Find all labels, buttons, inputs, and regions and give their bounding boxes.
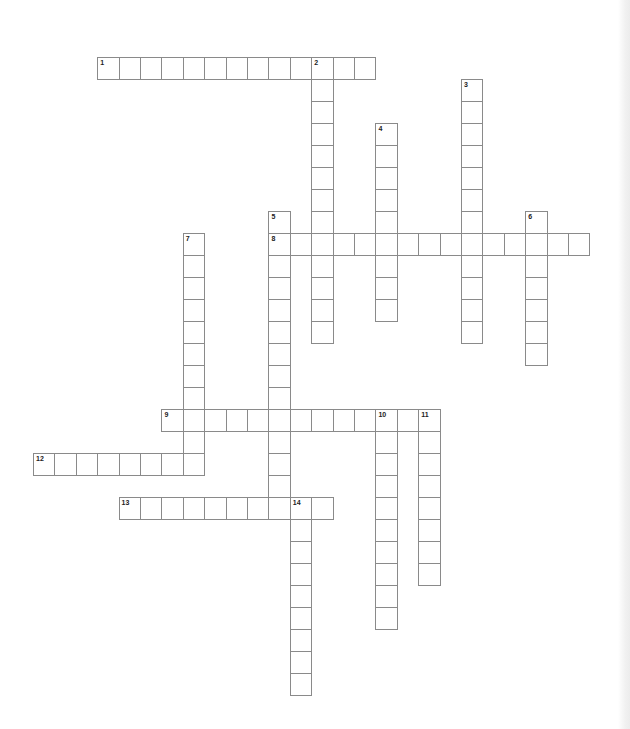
crossword-cell[interactable]: 4	[375, 123, 397, 146]
crossword-cell[interactable]	[161, 497, 183, 520]
crossword-cell[interactable]	[375, 475, 397, 498]
crossword-cell[interactable]	[525, 299, 547, 322]
crossword-cell[interactable]	[354, 233, 376, 256]
crossword-cell[interactable]	[290, 57, 312, 80]
crossword-cell[interactable]	[333, 233, 355, 256]
crossword-cell[interactable]	[311, 167, 333, 190]
crossword-cell[interactable]	[119, 57, 141, 80]
crossword-cell[interactable]	[375, 189, 397, 212]
crossword-cell[interactable]	[247, 409, 269, 432]
crossword-cell[interactable]	[183, 497, 205, 520]
crossword-cell[interactable]	[461, 145, 483, 168]
crossword-cell[interactable]	[268, 57, 290, 80]
crossword-cell[interactable]	[183, 299, 205, 322]
crossword-cell[interactable]	[290, 519, 312, 542]
crossword-cell[interactable]	[375, 233, 397, 256]
crossword-cell[interactable]	[268, 453, 290, 476]
crossword-cell[interactable]	[183, 57, 205, 80]
crossword-cell[interactable]	[183, 277, 205, 300]
crossword-cell[interactable]	[418, 453, 440, 476]
crossword-cell[interactable]	[183, 431, 205, 454]
crossword-cell[interactable]	[525, 321, 547, 344]
crossword-cell[interactable]	[311, 211, 333, 234]
crossword-cell[interactable]	[375, 299, 397, 322]
crossword-cell[interactable]	[525, 277, 547, 300]
crossword-cell[interactable]: 11	[418, 409, 440, 432]
crossword-cell[interactable]	[375, 519, 397, 542]
crossword-cell[interactable]	[311, 101, 333, 124]
crossword-cell[interactable]	[418, 541, 440, 564]
crossword-cell[interactable]: 10	[375, 409, 397, 432]
crossword-cell[interactable]	[161, 453, 183, 476]
crossword-cell[interactable]	[268, 277, 290, 300]
crossword-cell[interactable]	[311, 321, 333, 344]
crossword-cell[interactable]: 7	[183, 233, 205, 256]
crossword-cell[interactable]	[140, 497, 162, 520]
crossword-cell[interactable]	[311, 189, 333, 212]
crossword-cell[interactable]	[375, 497, 397, 520]
crossword-cell[interactable]	[183, 365, 205, 388]
crossword-cell[interactable]	[140, 57, 162, 80]
crossword-cell[interactable]	[375, 277, 397, 300]
crossword-cell[interactable]	[290, 541, 312, 564]
crossword-cell[interactable]	[183, 409, 205, 432]
crossword-cell[interactable]	[375, 211, 397, 234]
crossword-cell[interactable]	[461, 189, 483, 212]
crossword-cell[interactable]: 1	[97, 57, 119, 80]
crossword-cell[interactable]	[183, 387, 205, 410]
crossword-cell[interactable]: 5	[268, 211, 290, 234]
crossword-cell[interactable]	[119, 453, 141, 476]
crossword-cell[interactable]	[375, 563, 397, 586]
crossword-cell[interactable]	[268, 365, 290, 388]
crossword-cell[interactable]	[461, 167, 483, 190]
crossword-cell[interactable]	[183, 255, 205, 278]
crossword-cell[interactable]	[333, 409, 355, 432]
crossword-cell[interactable]: 9	[161, 409, 183, 432]
crossword-cell[interactable]	[268, 343, 290, 366]
crossword-cell[interactable]	[268, 255, 290, 278]
crossword-cell[interactable]	[418, 497, 440, 520]
crossword-cell[interactable]: 13	[119, 497, 141, 520]
crossword-cell[interactable]	[290, 585, 312, 608]
crossword-cell[interactable]	[375, 255, 397, 278]
crossword-cell[interactable]	[290, 233, 312, 256]
crossword-cell[interactable]	[525, 255, 547, 278]
crossword-cell[interactable]	[54, 453, 76, 476]
crossword-cell[interactable]	[375, 453, 397, 476]
crossword-cell[interactable]	[268, 475, 290, 498]
crossword-cell[interactable]	[268, 321, 290, 344]
crossword-cell[interactable]	[461, 101, 483, 124]
crossword-cell[interactable]: 3	[461, 79, 483, 102]
crossword-cell[interactable]	[268, 431, 290, 454]
crossword-cell[interactable]	[418, 519, 440, 542]
crossword-cell[interactable]	[525, 343, 547, 366]
crossword-cell[interactable]	[290, 651, 312, 674]
crossword-cell[interactable]: 12	[33, 453, 55, 476]
crossword-cell[interactable]	[140, 453, 162, 476]
crossword-cell[interactable]	[97, 453, 119, 476]
crossword-cell[interactable]	[375, 431, 397, 454]
crossword-cell[interactable]	[461, 299, 483, 322]
crossword-cell[interactable]	[247, 57, 269, 80]
crossword-cell[interactable]	[375, 585, 397, 608]
crossword-cell[interactable]	[461, 233, 483, 256]
crossword-cell[interactable]	[461, 321, 483, 344]
crossword-cell[interactable]: 6	[525, 211, 547, 234]
crossword-cell[interactable]	[375, 541, 397, 564]
crossword-cell[interactable]	[354, 57, 376, 80]
crossword-cell[interactable]	[204, 497, 226, 520]
crossword-cell[interactable]	[440, 233, 462, 256]
crossword-cell[interactable]	[247, 497, 269, 520]
crossword-cell[interactable]	[418, 233, 440, 256]
crossword-cell[interactable]	[461, 277, 483, 300]
crossword-cell[interactable]	[461, 123, 483, 146]
crossword-cell[interactable]	[311, 497, 333, 520]
crossword-cell[interactable]	[268, 497, 290, 520]
crossword-cell[interactable]	[418, 431, 440, 454]
crossword-cell[interactable]	[311, 145, 333, 168]
crossword-cell[interactable]	[311, 233, 333, 256]
crossword-cell[interactable]	[461, 211, 483, 234]
crossword-cell[interactable]	[568, 233, 590, 256]
crossword-cell[interactable]	[183, 453, 205, 476]
crossword-cell[interactable]	[461, 255, 483, 278]
